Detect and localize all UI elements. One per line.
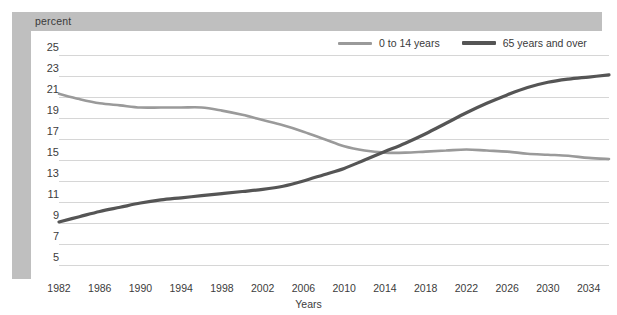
x-axis-tick-label: 1986 [80, 283, 120, 294]
legend-item: 65 years and over [462, 38, 587, 49]
y-axis-tick-label: 19 [33, 105, 59, 116]
top-band [12, 12, 602, 31]
y-axis-tick-label: 21 [33, 84, 59, 95]
x-axis-title: Years [0, 299, 617, 310]
legend-line-swatch [338, 42, 372, 45]
y-axis-tick-label: 25 [33, 42, 59, 53]
x-axis-tick-label: 1990 [120, 283, 160, 294]
chart-legend: 0 to 14 years65 years and over [338, 36, 587, 50]
legend-line-swatch [462, 41, 496, 45]
x-axis-tick-label: 2002 [243, 283, 283, 294]
x-axis-tick-label: 1994 [161, 283, 201, 294]
x-axis-tick-label: 2010 [324, 283, 364, 294]
legend-item: 0 to 14 years [338, 38, 440, 49]
series-line-young [59, 94, 609, 159]
x-axis-tick-label: 2014 [365, 283, 405, 294]
plot-svg [31, 31, 612, 279]
legend-label: 65 years and over [503, 38, 587, 49]
y-axis-tick-label: 9 [33, 210, 59, 221]
y-axis-tick-label: 17 [33, 126, 59, 137]
y-axis-tick-label: 23 [33, 63, 59, 74]
x-axis-tick-label: 2030 [528, 283, 568, 294]
x-axis-tick-label: 2022 [446, 283, 486, 294]
chart-figure: percent 2523211917151311975 198219861990… [0, 0, 617, 315]
legend-label: 0 to 14 years [379, 38, 440, 49]
y-axis-tick-label: 15 [33, 147, 59, 158]
y-axis-unit-label: percent [35, 14, 71, 29]
x-axis-tick-label: 2006 [283, 283, 323, 294]
y-axis-tick-label: 11 [33, 189, 59, 200]
y-axis-tick-label: 5 [33, 252, 59, 263]
left-band [12, 12, 31, 279]
x-axis-tick-label: 1982 [39, 283, 79, 294]
y-axis-tick-label: 13 [33, 168, 59, 179]
x-axis-tick-label: 2034 [569, 283, 609, 294]
plot-area [31, 31, 612, 279]
x-axis-tick-label: 2018 [406, 283, 446, 294]
x-axis-tick-label: 2026 [487, 283, 527, 294]
y-axis-tick-label: 7 [33, 231, 59, 242]
x-axis-tick-label: 1998 [202, 283, 242, 294]
